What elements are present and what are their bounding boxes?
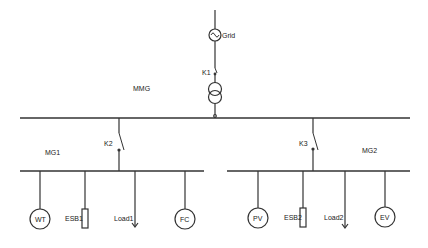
k3-label: K3	[299, 140, 308, 147]
svg-text:WT: WT	[35, 216, 47, 223]
grid-label: Grid	[222, 32, 235, 39]
ac-source-icon	[209, 29, 221, 41]
esb2-storage: ESB2	[284, 171, 306, 227]
pv-generator: PV	[248, 171, 268, 228]
svg-text:FC: FC	[180, 216, 189, 223]
mmg-label: MMG	[133, 85, 150, 92]
svg-text:ESB1: ESB1	[65, 215, 83, 222]
k1-label: K1	[202, 69, 211, 76]
svg-text:Load1: Load1	[114, 215, 134, 222]
switch-k2: K2	[104, 118, 124, 171]
svg-text:PV: PV	[253, 215, 263, 222]
transformer-icon	[209, 83, 222, 119]
fc-generator: FC	[175, 171, 195, 229]
svg-text:EV: EV	[380, 214, 390, 221]
wt-generator: WT	[30, 171, 50, 229]
switch-k3: K3	[299, 118, 318, 171]
mg1-label: MG1	[45, 149, 60, 156]
esb1-storage: ESB1	[65, 171, 88, 228]
load1-load: Load1	[114, 171, 138, 227]
microgrid-diagram: Grid K1 MMG K2 MG1 K3 MG2	[0, 0, 428, 248]
switch-k1: K1	[202, 41, 217, 83]
ev-generator: EV	[375, 171, 395, 227]
k2-label: K2	[104, 140, 113, 147]
mg2-label: MG2	[362, 147, 377, 154]
load2-load: Load2	[324, 171, 348, 228]
svg-text:ESB2: ESB2	[284, 214, 302, 221]
svg-text:Load2: Load2	[324, 214, 344, 221]
grid-source: Grid	[209, 10, 235, 41]
